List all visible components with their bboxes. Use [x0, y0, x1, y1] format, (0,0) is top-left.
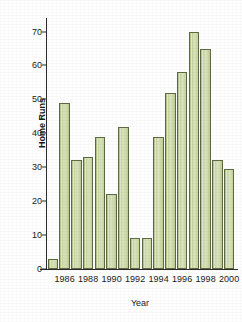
- bar-chart: Home Runs 010203040506070 19861988199019…: [0, 0, 242, 322]
- y-tick: 50: [16, 99, 42, 109]
- x-axis-line: [40, 269, 238, 270]
- x-tick-label: 1990: [99, 274, 125, 284]
- bar: [224, 169, 235, 269]
- y-tick-label: 20: [24, 197, 42, 206]
- y-tick-label: 60: [24, 61, 42, 70]
- bar: [212, 160, 223, 269]
- y-tick: 30: [16, 167, 42, 177]
- x-tick-label: 1986: [52, 274, 78, 284]
- y-tick: 10: [16, 235, 42, 245]
- bar: [177, 72, 188, 269]
- y-tick: 0: [16, 269, 42, 279]
- y-tick: 70: [16, 32, 42, 42]
- bar: [106, 194, 117, 269]
- bar: [189, 32, 200, 269]
- y-tick: 60: [16, 65, 42, 75]
- bar: [130, 238, 141, 269]
- bar: [200, 49, 211, 269]
- bar: [59, 103, 70, 269]
- y-tick: 20: [16, 201, 42, 211]
- x-tick-label: 1992: [122, 274, 148, 284]
- plot-area: [47, 18, 235, 269]
- bar: [95, 137, 106, 269]
- bar: [165, 93, 176, 269]
- bar: [71, 160, 82, 269]
- x-tick-label: 1996: [169, 274, 195, 284]
- x-tick-label: 2000: [216, 274, 242, 284]
- y-tick-label: 40: [24, 129, 42, 138]
- bar: [83, 157, 94, 269]
- x-tick-label: 1988: [75, 274, 101, 284]
- y-tick-label: 50: [24, 95, 42, 104]
- x-tick-label: 1994: [146, 274, 172, 284]
- y-tick: 40: [16, 133, 42, 143]
- x-axis-title: Year: [40, 298, 240, 308]
- bar: [153, 137, 164, 269]
- x-tick-label: 1998: [193, 274, 219, 284]
- y-tick-label: 70: [24, 28, 42, 37]
- bar: [48, 259, 59, 269]
- bar: [142, 238, 153, 269]
- bar: [118, 127, 129, 269]
- y-tick-label: 30: [24, 163, 42, 172]
- y-tick-label: 10: [24, 231, 42, 240]
